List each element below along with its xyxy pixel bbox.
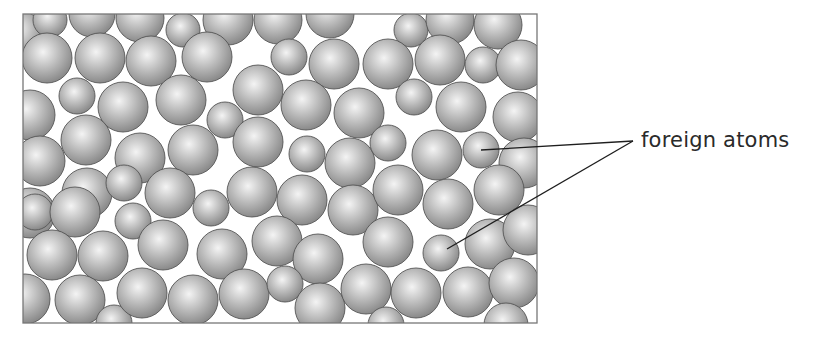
host-atom bbox=[233, 65, 283, 115]
host-atom bbox=[182, 32, 232, 82]
host-atom bbox=[0, 274, 50, 324]
foreign-atoms-label: foreign atoms bbox=[641, 128, 789, 152]
host-atom bbox=[254, 0, 302, 44]
host-atom bbox=[341, 264, 391, 314]
host-atom bbox=[309, 39, 359, 89]
host-atom bbox=[168, 125, 218, 175]
host-atom bbox=[50, 187, 100, 237]
host-atom bbox=[271, 39, 307, 75]
foreign-atoms-lattice-diagram bbox=[0, 0, 818, 346]
host-atom bbox=[106, 165, 142, 201]
host-atom bbox=[289, 136, 325, 172]
host-atom bbox=[423, 179, 473, 229]
host-atom bbox=[363, 217, 413, 267]
host-atom bbox=[116, 0, 164, 42]
host-atom bbox=[145, 168, 195, 218]
host-atom bbox=[295, 283, 345, 333]
host-atom bbox=[233, 117, 283, 167]
host-atom bbox=[396, 79, 432, 115]
host-atom bbox=[489, 258, 539, 308]
host-atom bbox=[496, 40, 546, 90]
host-atom bbox=[306, 0, 354, 38]
host-atom bbox=[61, 115, 111, 165]
host-atom bbox=[22, 33, 72, 83]
host-atom bbox=[75, 33, 125, 83]
host-atom bbox=[227, 167, 277, 217]
host-atom bbox=[69, 0, 115, 37]
host-atom bbox=[193, 190, 229, 226]
host-atom bbox=[219, 269, 269, 319]
host-atom bbox=[138, 220, 188, 270]
host-atom bbox=[443, 267, 493, 317]
host-atom bbox=[168, 275, 218, 325]
host-atom bbox=[370, 125, 406, 161]
host-atom bbox=[368, 307, 404, 343]
host-atom bbox=[325, 138, 375, 188]
host-atom bbox=[33, 3, 67, 37]
host-atom bbox=[281, 80, 331, 130]
host-atom bbox=[436, 82, 486, 132]
host-atom bbox=[59, 78, 95, 114]
host-atom bbox=[391, 268, 441, 318]
leader-line bbox=[481, 141, 633, 150]
host-atom bbox=[484, 303, 528, 346]
host-atoms-layer bbox=[0, 0, 553, 346]
host-atom bbox=[412, 130, 462, 180]
host-atom bbox=[78, 231, 128, 281]
foreign-atom bbox=[423, 235, 459, 271]
host-atom bbox=[117, 268, 167, 318]
host-atom bbox=[415, 35, 465, 85]
host-atom bbox=[373, 165, 423, 215]
host-atom bbox=[5, 90, 55, 140]
host-atom bbox=[156, 75, 206, 125]
host-atom bbox=[27, 230, 77, 280]
host-atom bbox=[493, 92, 543, 142]
